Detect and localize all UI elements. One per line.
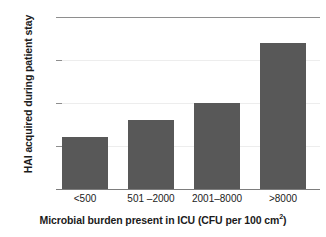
bar-category-1 [128, 120, 174, 189]
bar-category-3 [260, 43, 306, 189]
y-tickmark-20 [56, 17, 62, 18]
bar-category-2 [194, 103, 240, 189]
gridline-20 [62, 17, 320, 18]
plot-area: 20 15 10 5 0 <500 501 –2000 2001–8000 >8… [62, 17, 320, 189]
y-tickmark-10 [56, 103, 62, 104]
y-tickmark-15 [56, 60, 62, 61]
y-axis-title: HAI acquired during patient stay [22, 0, 34, 189]
x-tick-label-3: >8000 [244, 193, 322, 204]
x-axis-title-main: Microbial burden present in ICU (CFU per… [40, 214, 280, 226]
x-axis-baseline [56, 189, 320, 190]
x-axis-title: Microbial burden present in ICU (CFU per… [0, 213, 326, 226]
bar-chart-figure: HAI acquired during patient stay 20 15 1… [0, 0, 326, 237]
bar-category-0 [62, 137, 108, 189]
x-axis-title-suffix: ) [283, 214, 286, 226]
